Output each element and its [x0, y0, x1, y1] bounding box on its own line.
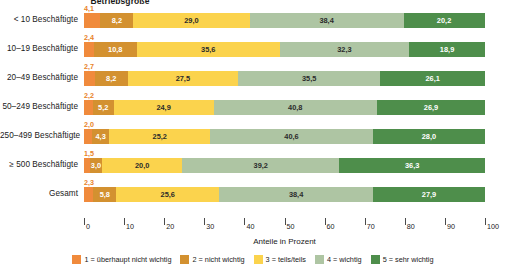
bar-segment: 26,1 — [380, 71, 485, 86]
axis-tick-mark — [325, 218, 326, 225]
legend-swatch-icon — [72, 255, 81, 264]
segment-value: 25,2 — [153, 133, 167, 140]
legend-item[interactable]: 4 = wichtig — [315, 255, 362, 264]
axis-tick-mark — [124, 218, 125, 225]
segment-value: 36,3 — [405, 162, 419, 169]
bar-segment: 28,0 — [373, 129, 485, 144]
legend-item[interactable]: 5 = sehr wichtig — [371, 255, 434, 264]
axis-tick-label: 0 — [86, 222, 90, 231]
legend-label: 3 = teils/teils — [266, 255, 306, 264]
chart-row: 10–19 Beschäftigte2,42,410,835,632,318,9 — [0, 34, 506, 63]
stacked-bar: 2,25,224,940,826,9 — [84, 100, 485, 115]
segment-outer-value: 4,1 — [84, 4, 94, 13]
axis-tick-mark — [244, 218, 245, 225]
segment-value: 38,4 — [289, 191, 303, 198]
bar-segment: 27,5 — [128, 71, 238, 86]
axis-tick-label: 100 — [487, 222, 499, 231]
segment-value: 27,5 — [176, 75, 190, 82]
bar-segment: 40,8 — [214, 100, 378, 115]
chart-row: 250–499 Beschäftigte2,02,04,325,240,628,… — [0, 121, 506, 150]
chart-legend: 1 = überhaupt nicht wichtig2 = nicht wic… — [0, 255, 506, 264]
segment-value: 40,6 — [284, 133, 298, 140]
legend-item[interactable]: 1 = überhaupt nicht wichtig — [72, 255, 171, 264]
bar-segment: 8,2 — [100, 13, 133, 28]
stacked-bar: 2,410,835,632,318,9 — [84, 42, 485, 57]
segment-value: 10,8 — [108, 46, 122, 53]
bar-segment: 8,2 — [95, 71, 128, 86]
legend-label: 1 = überhaupt nicht wichtig — [84, 255, 171, 264]
bar-segment: 24,9 — [114, 100, 214, 115]
bar-segment: 39,2 — [182, 158, 339, 173]
axis-tick-mark — [84, 218, 85, 225]
bar-segment: 36,3 — [339, 158, 485, 173]
bar-segment: 38,4 — [250, 13, 404, 28]
axis-tick-label: 40 — [246, 222, 254, 231]
segment-value: 27,9 — [422, 191, 436, 198]
bar-segment: 26,9 — [377, 100, 485, 115]
category-label: 20–49 Beschäftigte — [0, 73, 78, 82]
bar-segment: 40,6 — [210, 129, 373, 144]
bar-segment: 20,2 — [404, 13, 485, 28]
segment-outer-value: 2,3 — [84, 178, 94, 187]
legend-label: 4 = wichtig — [327, 255, 362, 264]
segment-value: 40,8 — [288, 104, 302, 111]
segment-value: 18,9 — [440, 46, 454, 53]
bar-segment: 2,3 — [84, 187, 93, 202]
legend-item[interactable]: 2 = nicht wichtig — [180, 255, 244, 264]
category-label: 50–249 Beschäftigte — [0, 102, 78, 111]
bar-segment: 5,2 — [93, 100, 114, 115]
legend-label: 2 = nicht wichtig — [192, 255, 244, 264]
category-label: 10–19 Beschäftigte — [0, 44, 78, 53]
category-label: Gesamt — [0, 189, 78, 198]
segment-value: 38,4 — [319, 17, 333, 24]
axis-tick-label: 60 — [327, 222, 335, 231]
bar-segment: 2,7 — [84, 71, 95, 86]
bar-segment: 5,8 — [93, 187, 116, 202]
segment-value: 25,6 — [161, 191, 175, 198]
segment-value: 8,2 — [112, 17, 122, 24]
bar-segment: 38,4 — [219, 187, 373, 202]
axis-tick-mark — [365, 218, 366, 225]
x-axis-title: Anteile in Prozent — [84, 237, 485, 246]
segment-value: 8,2 — [106, 75, 116, 82]
bar-segment: 27,9 — [373, 187, 485, 202]
category-label: ≥ 500 Beschäftigte — [0, 160, 78, 169]
chart-row: Gesamt2,32,35,825,638,427,9 — [0, 179, 506, 208]
axis-tick-label: 20 — [166, 222, 174, 231]
stacked-bar: 1,53,020,039,236,3 — [84, 158, 485, 173]
segment-value: 3,0 — [91, 162, 101, 169]
bar-segment: 4,1 — [84, 13, 100, 28]
legend-swatch-icon — [254, 255, 263, 264]
segment-outer-value: 2,2 — [84, 91, 94, 100]
axis-tick-mark — [485, 218, 486, 225]
category-label: < 10 Beschäftigte — [0, 15, 78, 24]
stacked-bar: 2,04,325,240,628,0 — [84, 129, 485, 144]
axis-tick-mark — [204, 218, 205, 225]
legend-label: 5 = sehr wichtig — [383, 255, 434, 264]
axis-tick-mark — [285, 218, 286, 225]
segment-value: 35,5 — [302, 75, 316, 82]
segment-value: 26,1 — [425, 75, 439, 82]
segment-value: 39,2 — [254, 162, 268, 169]
legend-swatch-icon — [180, 255, 189, 264]
segment-outer-value: 1,5 — [84, 149, 94, 158]
bar-segment: 35,6 — [137, 42, 280, 57]
axis-tick-label: 80 — [407, 222, 415, 231]
axis-tick-label: 30 — [206, 222, 214, 231]
bar-segment: 2,4 — [84, 42, 94, 57]
legend-swatch-icon — [315, 255, 324, 264]
segment-value: 28,0 — [422, 133, 436, 140]
x-axis: 0102030405060708090100 — [84, 218, 485, 236]
chart-row: ≥ 500 Beschäftigte1,51,53,020,039,236,3 — [0, 150, 506, 179]
segment-value: 24,9 — [156, 104, 170, 111]
stacked-bar: 4,18,229,038,420,2 — [84, 13, 485, 28]
bar-segment: 3,0 — [90, 158, 102, 173]
axis-tick-mark — [405, 218, 406, 225]
bar-segment: 20,0 — [102, 158, 182, 173]
legend-item[interactable]: 3 = teils/teils — [254, 255, 306, 264]
axis-tick-mark — [445, 218, 446, 225]
bar-segment: 35,5 — [238, 71, 380, 86]
axis-tick-label: 10 — [126, 222, 134, 231]
axis-tick-mark — [164, 218, 165, 225]
plot-area: < 10 Beschäftigte4,14,18,229,038,420,210… — [0, 5, 506, 210]
